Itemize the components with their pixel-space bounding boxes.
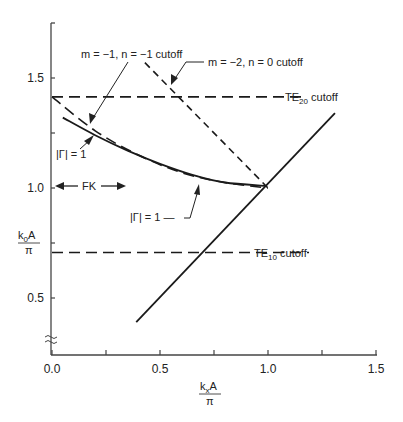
arrow-left-icon — [55, 182, 64, 190]
annotation-m1n1-leader — [93, 62, 128, 118]
x-tick-label: 0.5 — [152, 362, 169, 376]
annotation-te20-label: TE20 cutoff — [285, 91, 339, 106]
svg-text:π: π — [206, 395, 214, 407]
x-tick-label: 1.5 — [368, 362, 385, 376]
annotation-gamma-upper-label: |Γ| = 1 — [56, 148, 86, 160]
fk-label: FK — [82, 180, 97, 192]
svg-text:kxA: kxA — [200, 380, 218, 395]
series-1 — [63, 118, 266, 186]
x-axis-label: kxA π — [199, 380, 221, 407]
series-m-1-n-1-cutoff — [52, 97, 268, 188]
annotation-gamma-lower-leader — [184, 194, 197, 218]
chart: 0.00.51.01.50.51.01.5 m = −1, n = −1 cut… — [0, 0, 403, 422]
svg-text:k0A: k0A — [18, 229, 36, 244]
arrow-right-icon — [117, 182, 126, 190]
annotation-m2n0-leader — [174, 62, 204, 80]
axis-ticks — [51, 78, 376, 355]
x-tick-label: 0.0 — [44, 362, 61, 376]
series-m-2-n-0-cutoff — [145, 63, 268, 188]
fk-range-indicator: FK — [55, 180, 126, 192]
arrow-head-icon — [194, 184, 200, 195]
annotation-m1n1-label: m = −1, n = −1 cutoff — [81, 48, 183, 60]
x-tick-label: 1.0 — [260, 362, 277, 376]
annotation-m2n0-label: m = −2, n = 0 cutoff — [208, 56, 304, 68]
annotation-gamma-lower-label: |Γ| = 1 — — [130, 211, 174, 223]
y-axis-label: k0A π — [18, 229, 40, 256]
y-tick-label: 1.5 — [27, 71, 44, 85]
annotation-te10-label: TE10 cutoff — [254, 247, 308, 262]
y-tick-label: 1.0 — [27, 181, 44, 195]
y-tick-label: 0.5 — [27, 291, 44, 305]
svg-text:π: π — [25, 244, 33, 256]
